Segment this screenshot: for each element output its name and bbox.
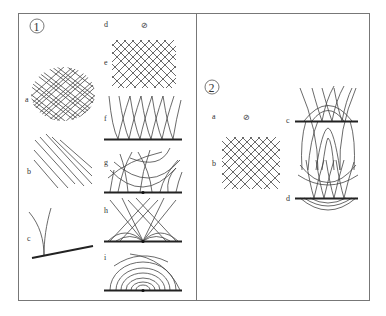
subfigure-i-nested-arcs (104, 254, 182, 292)
subfigure-g-converging-curves (104, 148, 182, 194)
subfigure-label-e: e (104, 58, 108, 67)
panel-number: 1 (34, 20, 40, 34)
focal-point (141, 240, 144, 243)
subfigure-label-d: d (286, 194, 290, 203)
focal-point (141, 191, 144, 194)
subfigure-label-h: h (104, 206, 108, 215)
empty-set-icon: ⊘ (141, 21, 148, 30)
subfigure-b-diagonal-lines (34, 134, 92, 188)
subfigure-label-a: a (25, 95, 29, 104)
subfigure-label-i: i (104, 253, 107, 262)
panel-2: 2 a ⊘ b c d (180, 80, 358, 210)
subfigure-label-b: b (27, 167, 31, 176)
subfigure-e-diamond-grid (58, 40, 224, 136)
subfigure-label-a: a (212, 112, 216, 121)
subfigure-label-f: f (104, 114, 107, 123)
subfigure-b-diamond-grid (180, 137, 322, 193)
subfigure-c-crossing-arcs (295, 86, 358, 170)
focal-point (141, 289, 144, 292)
subfigure-c-branch (29, 208, 93, 258)
subfigure-label-c: c (27, 234, 31, 243)
subfigure-f-arcs (104, 96, 182, 140)
panel-number: 2 (209, 81, 215, 95)
subfigure-label-c: c (286, 116, 290, 125)
panel-1: 1 a b c d e f g h i ⊘ (20, 19, 224, 292)
figure-canvas: 1 a b c d e f g h i ⊘ (0, 0, 386, 316)
subfigure-d-bowl-curves (295, 160, 358, 210)
subfigure-label-d: d (104, 20, 108, 29)
empty-set-icon: ⊘ (243, 113, 250, 122)
subfigure-label-b: b (212, 159, 216, 168)
subfigure-h-crossing-lines (104, 198, 182, 243)
subfigure-label-g: g (104, 158, 108, 167)
outer-frame (19, 14, 370, 301)
